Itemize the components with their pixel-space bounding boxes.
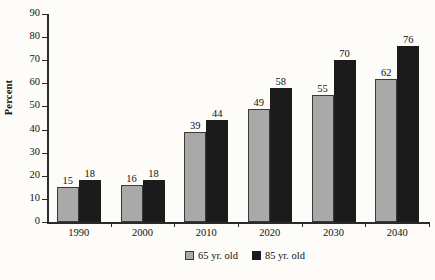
bar: 62 [375,79,397,222]
x-axis-tick-mark [365,222,366,227]
bar-value-label: 49 [254,97,265,108]
bar: 76 [397,46,419,222]
x-axis-category-label: 2040 [387,227,408,238]
y-axis-tick-mark [42,153,47,154]
y-axis-line [47,14,49,222]
y-axis-tick-mark [42,130,47,131]
y-axis-tick-label: 10 [30,192,41,203]
legend-item: 65 yr. old [185,250,238,261]
x-axis-category-label: 2020 [259,227,280,238]
chart-legend: 65 yr. old85 yr. old [185,250,305,261]
bar-value-label: 76 [403,34,414,45]
y-axis-tick-label: 0 [35,215,40,226]
bar: 16 [121,185,143,222]
bar-group: 4958 [248,14,292,222]
x-axis-tick-mark [238,222,239,227]
y-axis-tick-label: 90 [30,7,41,18]
x-axis-tick-mark [111,222,112,227]
y-axis-tick-mark [42,83,47,84]
bar-value-label: 62 [381,67,392,78]
y-axis-tick-mark [42,176,47,177]
bar-chart-figure: Percent 0102030405060708090 151816183944… [0,0,435,280]
bar-group: 3944 [184,14,228,222]
x-axis-category-label: 2010 [196,227,217,238]
bar-group: 6276 [375,14,419,222]
bar-value-label: 15 [63,175,74,186]
bar: 39 [184,132,206,222]
bar-value-label: 58 [276,76,287,87]
legend-item-label: 85 yr. old [265,250,305,261]
y-axis-title: Percent [3,58,14,138]
y-axis-tick-mark [42,14,47,15]
y-axis-tick-label: 60 [30,76,41,87]
bar-value-label: 70 [339,48,350,59]
bar: 18 [79,180,101,222]
y-axis-tick-label: 40 [30,123,41,134]
y-axis-tick-label: 20 [30,169,41,180]
gray-swatch [185,251,194,260]
bar: 55 [312,95,334,222]
bar-value-label: 44 [212,108,223,119]
y-axis-tick-label: 50 [30,99,41,110]
bar-value-label: 16 [126,173,137,184]
y-axis-tick-label: 30 [30,146,41,157]
legend-item-label: 65 yr. old [198,250,238,261]
legend-item: 85 yr. old [252,250,305,261]
y-axis-tick-mark [42,60,47,61]
x-axis-category-label: 2030 [323,227,344,238]
bar: 44 [206,120,228,222]
y-axis-tick-label: 70 [30,53,41,64]
y-axis-tick-mark [42,222,47,223]
bar-value-label: 18 [148,168,159,179]
y-axis-tick-mark [42,106,47,107]
bar-value-label: 18 [85,168,96,179]
plot-area: 0102030405060708090 15181618394449585570… [47,14,429,222]
bar: 18 [143,180,165,222]
bar-group: 5570 [312,14,356,222]
x-axis-tick-mark [302,222,303,227]
y-axis-tick-label: 80 [30,30,41,41]
x-axis-tick-mark [174,222,175,227]
y-axis-tick-mark [42,37,47,38]
bar: 49 [248,109,270,222]
x-axis-category-label: 2000 [132,227,153,238]
y-axis-tick-mark [42,199,47,200]
black-swatch [252,251,261,260]
x-axis-category-label: 1990 [68,227,89,238]
bar-group: 1618 [121,14,165,222]
bar: 15 [57,187,79,222]
bar-value-label: 55 [317,83,328,94]
bar: 70 [334,60,356,222]
x-axis-tick-mark [429,222,430,227]
bar: 58 [270,88,292,222]
bar-value-label: 39 [190,120,201,131]
bar-group: 1518 [57,14,101,222]
